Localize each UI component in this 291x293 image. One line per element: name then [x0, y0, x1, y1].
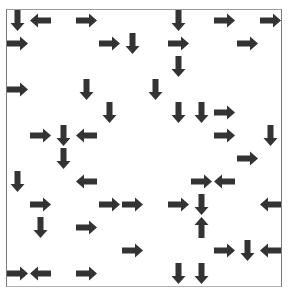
arrow-cell[interactable]	[259, 193, 282, 216]
arrow-left-icon	[75, 170, 98, 193]
arrow-right-icon	[98, 193, 121, 216]
arrow-cell[interactable]	[52, 124, 75, 147]
arrow-cell[interactable]	[144, 78, 167, 101]
arrow-down-icon	[190, 101, 213, 124]
arrow-right-icon	[213, 101, 236, 124]
arrow-down-icon	[167, 262, 190, 285]
arrow-cell[interactable]	[75, 78, 98, 101]
arrow-down-icon	[167, 9, 190, 32]
arrow-cell[interactable]	[213, 9, 236, 32]
arrow-cell[interactable]	[75, 216, 98, 239]
arrow-cell[interactable]	[190, 193, 213, 216]
arrow-down-icon	[167, 101, 190, 124]
arrow-cell[interactable]	[167, 193, 190, 216]
arrow-cell[interactable]	[259, 124, 282, 147]
arrow-down-icon	[98, 101, 121, 124]
arrow-right-icon	[121, 193, 144, 216]
arrow-cell[interactable]	[190, 101, 213, 124]
arrow-cell[interactable]	[29, 9, 52, 32]
arrow-right-icon	[29, 124, 52, 147]
arrow-right-icon	[98, 32, 121, 55]
arrow-right-icon	[6, 32, 29, 55]
arrow-cell[interactable]	[190, 262, 213, 285]
arrow-cell[interactable]	[121, 239, 144, 262]
arrow-right-icon	[236, 32, 259, 55]
arrow-cell[interactable]	[98, 32, 121, 55]
arrow-right-icon	[236, 147, 259, 170]
arrow-cell[interactable]	[75, 124, 98, 147]
arrow-cell[interactable]	[167, 101, 190, 124]
arrow-right-icon	[167, 193, 190, 216]
arrow-left-icon	[213, 170, 236, 193]
arrow-cell[interactable]	[167, 32, 190, 55]
arrow-down-icon	[167, 55, 190, 78]
arrow-down-icon	[52, 147, 75, 170]
arrow-left-icon	[259, 239, 282, 262]
arrow-down-icon	[190, 193, 213, 216]
arrow-left-icon	[29, 9, 52, 32]
arrow-cell[interactable]	[52, 147, 75, 170]
arrow-down-icon	[29, 216, 52, 239]
arrow-down-icon	[236, 239, 259, 262]
arrow-cell[interactable]	[236, 147, 259, 170]
arrow-right-icon	[167, 32, 190, 55]
arrow-down-icon	[259, 124, 282, 147]
arrow-right-icon	[259, 9, 282, 32]
arrow-cell[interactable]	[6, 170, 29, 193]
arrow-cell[interactable]	[167, 55, 190, 78]
arrow-down-icon	[6, 9, 29, 32]
arrow-cell[interactable]	[259, 9, 282, 32]
arrow-cell[interactable]	[29, 262, 52, 285]
arrow-cell[interactable]	[6, 78, 29, 101]
arrow-right-icon	[213, 124, 236, 147]
arrow-down-icon	[121, 32, 144, 55]
arrow-left-icon	[29, 262, 52, 285]
arrow-down-icon	[144, 78, 167, 101]
arrow-right-icon	[75, 9, 98, 32]
arrow-right-icon	[6, 78, 29, 101]
arrow-cell[interactable]	[121, 193, 144, 216]
arrow-cell[interactable]	[29, 216, 52, 239]
arrow-down-icon	[6, 170, 29, 193]
arrow-cell[interactable]	[98, 193, 121, 216]
arrow-cell[interactable]	[75, 262, 98, 285]
arrow-cell[interactable]	[75, 170, 98, 193]
arrow-cell[interactable]	[167, 9, 190, 32]
arrow-right-icon	[75, 216, 98, 239]
arrow-cell[interactable]	[98, 101, 121, 124]
arrow-right-icon	[190, 170, 213, 193]
arrow-cell[interactable]	[213, 124, 236, 147]
arrow-left-icon	[75, 124, 98, 147]
arrow-cell[interactable]	[6, 32, 29, 55]
arrow-cell[interactable]	[190, 216, 213, 239]
arrow-cell[interactable]	[75, 9, 98, 32]
arrow-right-icon	[213, 9, 236, 32]
arrow-cell[interactable]	[236, 239, 259, 262]
arrow-cell[interactable]	[213, 170, 236, 193]
arrow-cell[interactable]	[213, 239, 236, 262]
arrow-puzzle-board	[6, 9, 282, 287]
arrow-left-icon	[259, 193, 282, 216]
arrow-cell[interactable]	[167, 262, 190, 285]
arrow-cell[interactable]	[236, 32, 259, 55]
arrow-cell[interactable]	[6, 262, 29, 285]
arrow-right-icon	[75, 262, 98, 285]
arrow-cell[interactable]	[29, 124, 52, 147]
arrow-right-icon	[6, 262, 29, 285]
arrow-cell[interactable]	[259, 239, 282, 262]
arrow-down-icon	[190, 262, 213, 285]
arrow-cell[interactable]	[29, 193, 52, 216]
arrow-down-icon	[52, 124, 75, 147]
arrow-right-icon	[29, 193, 52, 216]
arrow-cell[interactable]	[213, 101, 236, 124]
arrow-down-icon	[75, 78, 98, 101]
arrow-cell[interactable]	[6, 9, 29, 32]
arrow-cell[interactable]	[190, 170, 213, 193]
arrow-right-icon	[121, 239, 144, 262]
arrow-right-icon	[213, 239, 236, 262]
arrow-up-icon	[190, 216, 213, 239]
arrow-cell[interactable]	[121, 32, 144, 55]
